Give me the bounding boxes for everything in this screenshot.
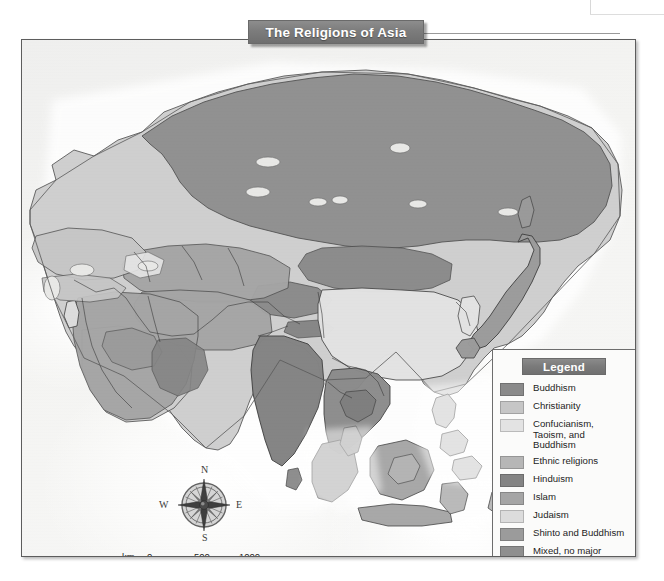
legend-swatch-shinto-buddhism: [500, 528, 524, 541]
legend-item-shinto-buddhism[interactable]: Shinto and Buddhism: [500, 527, 628, 541]
banner-connector-rule: [424, 33, 620, 34]
scale-km-unit: km: [122, 551, 135, 557]
legend-item-ethnic-religions[interactable]: Ethnic religions: [500, 455, 628, 469]
legend-item-judaism[interactable]: Judaism: [500, 509, 628, 523]
legend-swatch-islam: [500, 492, 524, 505]
legend-label-judaism: Judaism: [533, 509, 569, 521]
legend-label-buddhism: Buddhism: [533, 382, 576, 394]
legend-swatch-confucianism: [500, 419, 524, 432]
legend-swatch-hinduism: [500, 474, 524, 487]
legend-item-mixed-no-major-religion[interactable]: Mixed, no major religion: [500, 545, 628, 557]
legend-item-islam[interactable]: Islam: [500, 491, 628, 505]
map-frame[interactable]: N S W E: [21, 39, 636, 557]
page-canvas: N S W E: [0, 0, 664, 581]
legend-label-islam: Islam: [533, 491, 556, 503]
legend-swatch-mixed-no-major-religion: [500, 546, 524, 557]
legend-label-mixed-no-major-religion: Mixed, no major religion: [533, 545, 628, 557]
page-edge-rule-vertical: [590, 0, 591, 14]
compass-north-label: N: [201, 464, 208, 475]
legend-item-confucianism[interactable]: Confucianism, Taoism, and Buddhism: [500, 418, 628, 451]
scale-km-tick-500: 500: [194, 551, 210, 557]
legend-label-shinto-buddhism: Shinto and Buddhism: [533, 527, 624, 539]
compass-east-label: E: [236, 499, 242, 510]
scale-km-tick-1000: 1000: [239, 551, 260, 557]
scale-km-tick-0: 0: [147, 551, 152, 557]
legend-item-buddhism[interactable]: Buddhism: [500, 382, 628, 396]
map-title-text: The Religions of Asia: [266, 25, 407, 40]
map-title-banner: The Religions of Asia: [248, 20, 424, 44]
scale-bar: km mi 0 500 1000 0 500 1000: [122, 548, 300, 557]
compass-rose: N S W E: [158, 464, 250, 546]
legend-label-ethnic-religions: Ethnic religions: [533, 455, 598, 467]
legend-item-hinduism[interactable]: Hinduism: [500, 473, 628, 487]
map-legend[interactable]: Legend Buddhism Christianity Confucianis…: [492, 349, 636, 557]
legend-heading: Legend: [522, 358, 606, 375]
legend-swatch-christianity: [500, 401, 524, 414]
legend-swatch-ethnic-religions: [500, 456, 524, 469]
legend-label-confucianism: Confucianism, Taoism, and Buddhism: [533, 418, 628, 451]
legend-label-christianity: Christianity: [533, 400, 580, 412]
legend-swatch-judaism: [500, 510, 524, 523]
compass-south-label: S: [202, 532, 208, 543]
page-edge-rule-horizontal: [590, 14, 664, 15]
compass-west-label: W: [159, 499, 168, 510]
legend-swatch-buddhism: [500, 383, 524, 396]
legend-item-christianity[interactable]: Christianity: [500, 400, 628, 414]
legend-label-hinduism: Hinduism: [533, 473, 573, 485]
